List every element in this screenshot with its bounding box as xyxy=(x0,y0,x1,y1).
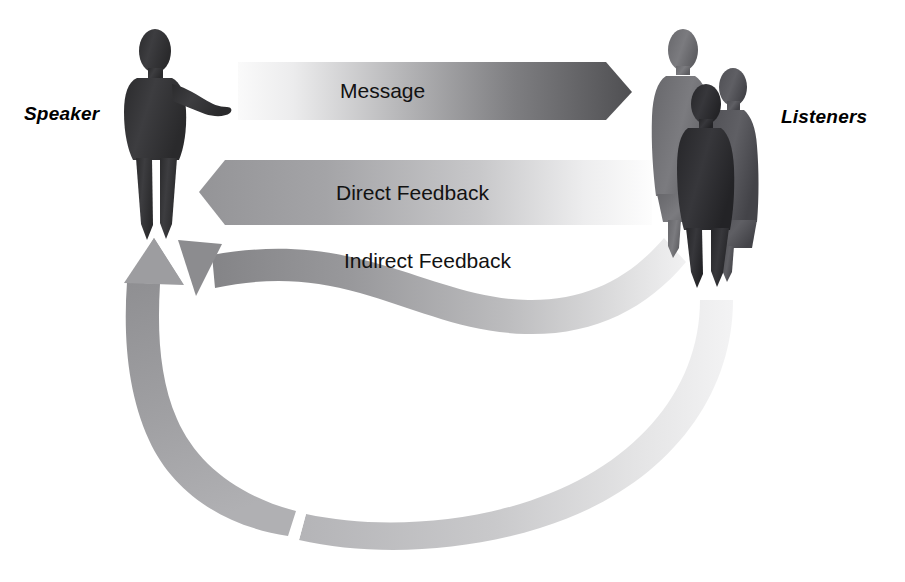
message-shape xyxy=(238,62,632,120)
listener-back-neck xyxy=(676,66,690,75)
listener-right-neck xyxy=(727,101,740,110)
listener-front-torso xyxy=(677,128,734,230)
direct-feedback-arrow-label: Direct Feedback xyxy=(336,181,489,205)
speaker-head xyxy=(139,29,171,73)
diagram-graphics xyxy=(0,0,905,582)
speaker-leg-right xyxy=(160,158,177,239)
message-arrow-label: Message xyxy=(340,79,425,103)
listeners-label: Listeners xyxy=(781,106,867,128)
speaker-label: Speaker xyxy=(24,103,99,125)
speaker-neck xyxy=(148,68,163,78)
message-arrow xyxy=(238,62,632,120)
listener-front-neck xyxy=(699,119,713,128)
listener-front-leg-left xyxy=(686,228,703,288)
arc-right-segment xyxy=(299,300,733,550)
speaker-leg-left xyxy=(136,158,153,240)
diagram-canvas: Speaker Listeners Message Direct Feedbac… xyxy=(0,0,905,582)
indirect-feedback-arrow-label: Indirect Feedback xyxy=(344,249,511,273)
arc-left-segment xyxy=(126,282,296,536)
listener-back-head xyxy=(668,29,698,71)
listener-front-head xyxy=(691,84,721,124)
listener-right-head xyxy=(719,68,747,106)
arc-arrowhead-triangle xyxy=(124,238,184,285)
